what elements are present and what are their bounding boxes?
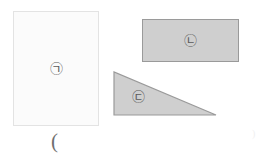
triangle-polygon [114, 72, 216, 115]
shape-label-a: ㉠ [49, 61, 64, 76]
bottom-paren-mark: ( [51, 131, 58, 152]
shape-label-c: ㉢ [131, 89, 146, 104]
shape-label-b: ㉡ [183, 33, 198, 48]
triangle-svg [113, 71, 217, 117]
right-edge-mark: ) [252, 128, 264, 139]
shape-right-triangle [113, 71, 217, 117]
figure-canvas: ㉠ ㉡ ㉢ ( ) [0, 0, 264, 161]
